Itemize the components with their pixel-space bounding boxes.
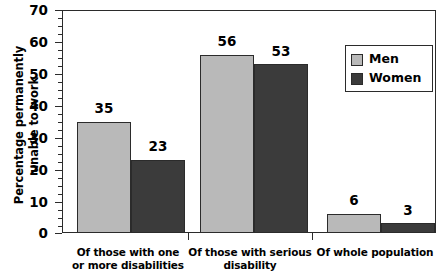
y-minor-tick <box>58 162 62 163</box>
bar-chart: Percentage permanently unable to work 70… <box>0 0 443 273</box>
bar-value-men-group-3: 6 <box>327 194 381 208</box>
y-minor-tick <box>58 58 62 59</box>
y-minor-tick <box>58 226 62 227</box>
y-tick-label-40: 40 <box>2 100 48 114</box>
y-tick-label-60: 60 <box>2 36 48 50</box>
category-label-1: Of those with one or more disabilities <box>58 246 198 271</box>
y-tick-20 <box>55 170 62 171</box>
y-minor-tick <box>58 122 62 123</box>
bar-women-group-1 <box>131 160 185 233</box>
legend-item-women: Women <box>351 69 432 88</box>
y-minor-tick <box>58 194 62 195</box>
bar-value-women-group-3: 3 <box>381 204 435 218</box>
y-minor-tick <box>58 154 62 155</box>
y-tick-30 <box>55 138 62 139</box>
bar-women-group-2 <box>254 64 308 233</box>
y-tick-label-50: 50 <box>2 68 48 82</box>
legend-label-men: Men <box>369 53 399 66</box>
bar-value-men-group-1: 35 <box>77 102 131 116</box>
bar-women-group-3 <box>381 223 435 233</box>
y-minor-tick <box>58 210 62 211</box>
x-tick-separator-1 <box>188 233 189 240</box>
y-minor-tick <box>58 130 62 131</box>
y-tick-0 <box>55 233 62 234</box>
bar-value-women-group-1: 23 <box>131 140 185 154</box>
y-minor-tick <box>58 98 62 99</box>
y-minor-tick <box>58 90 62 91</box>
legend-item-men: Men <box>351 50 432 69</box>
women-swatch-icon <box>351 73 363 85</box>
y-minor-tick <box>58 82 62 83</box>
y-tick-60 <box>55 42 62 43</box>
y-minor-tick <box>58 50 62 51</box>
y-tick-label-30: 30 <box>2 132 48 146</box>
men-swatch-icon <box>351 54 363 66</box>
y-tick-40 <box>55 106 62 107</box>
x-tick-separator-2 <box>312 233 313 240</box>
y-tick-70 <box>55 10 62 11</box>
y-tick-label-20: 20 <box>2 164 48 178</box>
y-minor-tick <box>58 26 62 27</box>
bar-men-group-1 <box>77 122 131 234</box>
y-minor-tick <box>58 218 62 219</box>
bar-men-group-2 <box>200 55 254 233</box>
y-tick-50 <box>55 74 62 75</box>
y-minor-tick <box>58 114 62 115</box>
y-minor-tick <box>58 18 62 19</box>
y-minor-tick <box>58 178 62 179</box>
legend-label-women: Women <box>369 72 421 85</box>
bar-men-group-3 <box>327 214 381 233</box>
category-label-3: Of whole population <box>312 246 438 259</box>
y-minor-tick <box>58 186 62 187</box>
y-tick-10 <box>55 202 62 203</box>
y-tick-label-0: 0 <box>2 227 48 241</box>
bar-value-women-group-2: 53 <box>254 45 308 59</box>
y-minor-tick <box>58 146 62 147</box>
y-tick-label-70: 70 <box>2 4 48 18</box>
y-minor-tick <box>58 34 62 35</box>
bar-value-men-group-2: 56 <box>200 35 254 49</box>
legend: Men Women <box>345 45 433 92</box>
category-label-2: Of those with serious disability <box>184 246 316 271</box>
y-minor-tick <box>58 66 62 67</box>
y-tick-label-10: 10 <box>2 196 48 210</box>
